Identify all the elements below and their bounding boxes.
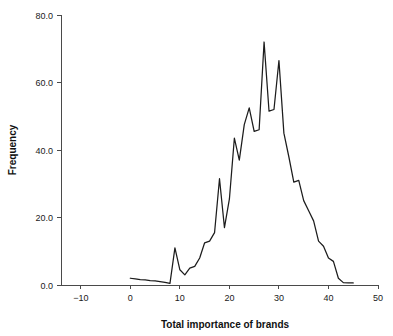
frequency-line-chart: 0.020.040.060.080.0 −1001020304050 Total… bbox=[0, 0, 393, 336]
x-tick-label: −10 bbox=[73, 293, 88, 303]
x-tick-label: 10 bbox=[175, 293, 185, 303]
y-tick-label: 20.0 bbox=[35, 213, 53, 223]
x-tick-label: 30 bbox=[274, 293, 284, 303]
data-series-line bbox=[130, 42, 353, 283]
x-tick-label: 20 bbox=[224, 293, 234, 303]
y-tick-label: 0.0 bbox=[40, 281, 53, 291]
y-axis-title: Frequency bbox=[7, 124, 18, 175]
x-tick-label: 40 bbox=[323, 293, 333, 303]
y-axis-ticks: 0.020.040.060.080.0 bbox=[35, 11, 61, 291]
x-tick-label: 0 bbox=[128, 293, 133, 303]
chart-container: 0.020.040.060.080.0 −1001020304050 Total… bbox=[0, 0, 393, 336]
y-tick-label: 40.0 bbox=[35, 146, 53, 156]
x-axis-title: Total importance of brands bbox=[161, 319, 290, 330]
y-tick-label: 80.0 bbox=[35, 11, 53, 21]
x-axis-ticks: −1001020304050 bbox=[73, 285, 383, 303]
x-tick-label: 50 bbox=[373, 293, 383, 303]
y-tick-label: 60.0 bbox=[35, 78, 53, 88]
